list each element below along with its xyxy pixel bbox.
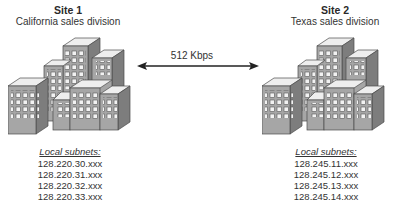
site-1-buildings-icon xyxy=(8,36,132,136)
site-2-subnet: 128.245.13.xxx xyxy=(266,180,386,191)
site-2-title: Site 2 xyxy=(255,4,394,16)
site-2-subnets: Local subnets: 128.245.11.xxx 128.245.12… xyxy=(266,146,386,202)
site-1-subnet: 128.220.30.xxx xyxy=(10,158,130,169)
site-1-subtitle: California sales division xyxy=(0,16,148,27)
site-1-subnets-heading: Local subnets: xyxy=(10,146,130,157)
site-1-subnet: 128.220.31.xxx xyxy=(10,169,130,180)
site-1-subnet: 128.220.32.xxx xyxy=(10,180,130,191)
site-2-subnet: 128.245.12.xxx xyxy=(266,169,386,180)
site-1-subnet: 128.220.33.xxx xyxy=(10,191,130,202)
site-2-subnet: 128.245.14.xxx xyxy=(266,191,386,202)
site-2-subtitle: Texas sales division xyxy=(255,16,394,27)
site-1-title: Site 1 xyxy=(0,4,148,16)
site-2-buildings-icon xyxy=(262,36,386,136)
site-2-subnet: 128.245.11.xxx xyxy=(266,158,386,169)
site-2-subnets-heading: Local subnets: xyxy=(266,146,386,157)
double-arrow-icon xyxy=(135,60,261,72)
site-1-subnets: Local subnets: 128.220.30.xxx 128.220.31… xyxy=(10,146,130,202)
